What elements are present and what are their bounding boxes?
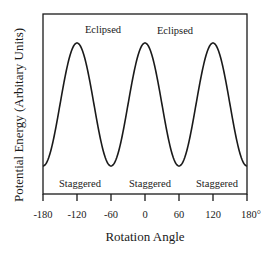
x-tick-label: -60 — [104, 209, 118, 220]
y-axis-title: Potential Energy (Arbitary Units) — [11, 28, 26, 202]
x-tick-label: 60 — [174, 209, 185, 220]
annotation-eclipsed-right: Eclipsed — [157, 25, 194, 36]
energy-curve — [43, 43, 247, 166]
energy-chart: -180-120-60060120180° Eclipsed Eclipsed … — [0, 0, 273, 254]
annotation-staggered-center: Staggered — [129, 178, 172, 189]
x-axis-tick-labels: -180-120-60060120180° — [33, 209, 261, 220]
x-tick-label: 120 — [205, 209, 221, 220]
x-tick-label: 180° — [241, 209, 261, 220]
x-axis-ticks — [43, 194, 247, 201]
annotation-staggered-left: Staggered — [59, 178, 102, 189]
x-tick-label: 0 — [142, 209, 147, 220]
plot-frame — [43, 14, 247, 194]
annotation-eclipsed-left: Eclipsed — [85, 24, 122, 35]
annotation-staggered-right: Staggered — [196, 178, 239, 189]
x-axis-title: Rotation Angle — [105, 229, 184, 244]
x-tick-label: -120 — [67, 209, 86, 220]
x-tick-label: -180 — [33, 209, 52, 220]
